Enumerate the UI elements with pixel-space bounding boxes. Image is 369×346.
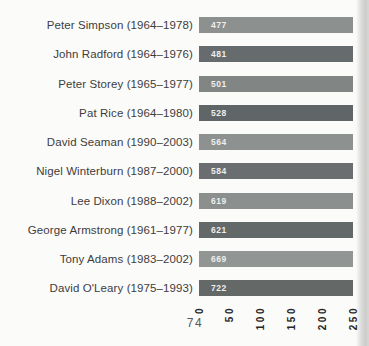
x-axis-tick-label: 150: [286, 301, 310, 319]
bar: 528: [199, 105, 353, 121]
chart-row: David O'Leary (1975–1993)722: [0, 280, 369, 296]
bar-value-label: 669: [211, 254, 227, 264]
chart-row: Nigel Winterburn (1987–2000)584: [0, 163, 369, 179]
appearances-bar-chart: Peter Simpson (1964–1978)477John Radford…: [0, 0, 369, 346]
bar-value-label: 477: [211, 20, 227, 30]
bar-value-label: 501: [211, 79, 227, 89]
bar-label: Lee Dixon (1988–2002): [0, 193, 193, 209]
bar: 722: [199, 280, 353, 296]
bar-label: Peter Simpson (1964–1978): [0, 17, 193, 33]
x-axis-tick-label: 200: [317, 301, 341, 319]
bar-value-label: 621: [211, 225, 227, 235]
bar-value-label: 722: [211, 283, 227, 293]
page-number: 74: [178, 316, 212, 330]
bar: 621: [199, 222, 353, 238]
chart-row: John Radford (1964–1976)481: [0, 46, 369, 62]
bar-label: Nigel Winterburn (1987–2000): [0, 163, 193, 179]
bar-value-label: 619: [211, 196, 227, 206]
bar: 564: [199, 134, 353, 150]
bar-label: Peter Storey (1965–1977): [0, 76, 193, 92]
chart-row: Peter Simpson (1964–1978)477: [0, 17, 369, 33]
bar-value-label: 481: [211, 49, 227, 59]
bar-label: George Armstrong (1961–1977): [0, 222, 193, 238]
bar-label: John Radford (1964–1976): [0, 46, 193, 62]
bar-label: Tony Adams (1983–2002): [0, 251, 193, 267]
bar: 669: [199, 251, 353, 267]
bar: 477: [199, 17, 353, 33]
chart-row: Lee Dixon (1988–2002)619: [0, 193, 369, 209]
bar: 481: [199, 46, 353, 62]
chart-row: David Seaman (1990–2003)564: [0, 134, 369, 150]
chart-row: Tony Adams (1983–2002)669: [0, 251, 369, 267]
bar-value-label: 564: [211, 137, 227, 147]
chart-row: George Armstrong (1961–1977)621: [0, 222, 369, 238]
x-axis-tick-label: 100: [255, 301, 279, 319]
bar-label: David O'Leary (1975–1993): [0, 280, 193, 296]
page-edge-shadow: [356, 0, 369, 346]
x-axis-tick-label: 50: [224, 301, 240, 319]
bar-label: David Seaman (1990–2003): [0, 134, 193, 150]
bar-label: Pat Rice (1964–1980): [0, 105, 193, 121]
bar: 619: [199, 193, 353, 209]
chart-row: Pat Rice (1964–1980)528: [0, 105, 369, 121]
bar: 501: [199, 76, 353, 92]
bar: 584: [199, 163, 353, 179]
bar-value-label: 584: [211, 166, 227, 176]
bar-value-label: 528: [211, 108, 227, 118]
chart-row: Peter Storey (1965–1977)501: [0, 76, 369, 92]
